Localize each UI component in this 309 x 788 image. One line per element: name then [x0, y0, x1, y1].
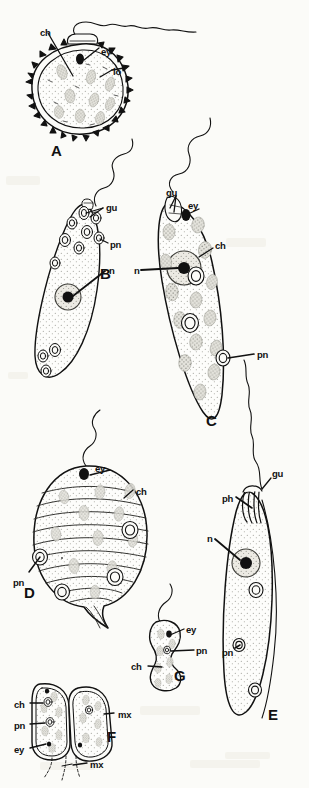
figure-g-organism: [148, 584, 194, 691]
part-label-c-ch: ch: [215, 241, 226, 251]
part-label-c-n: n: [134, 266, 140, 276]
part-label-a-lo: lo: [113, 67, 121, 77]
figure-label-d: D: [24, 585, 35, 600]
part-label-c-ey: ey: [188, 201, 198, 211]
figure-label-g: G: [174, 668, 186, 683]
illustration-plate: A B C D E F G ch ey lo gu pn n gu ey ch …: [0, 0, 309, 788]
part-label-d-pn: pn: [13, 578, 24, 588]
figure-d-organism: [29, 410, 148, 628]
part-label-b-pn: pn: [110, 240, 121, 250]
part-label-e-pn: pn: [222, 648, 233, 658]
part-label-f-pn: pn: [14, 721, 25, 731]
part-label-c-pn: pn: [257, 350, 268, 360]
figure-a-organism: [26, 22, 196, 141]
part-label-e-n: n: [207, 534, 213, 544]
part-label-a-ch: ch: [40, 28, 51, 38]
part-label-a-ey: ey: [101, 47, 111, 57]
part-label-e-gu: gu: [272, 469, 283, 479]
figure-label-f: F: [107, 729, 116, 744]
plate-artwork: [0, 0, 309, 788]
part-label-g-ch: ch: [131, 662, 142, 672]
figure-b-organism: [35, 139, 133, 377]
part-label-g-pn: pn: [196, 646, 207, 656]
figure-label-c: C: [206, 413, 217, 428]
figure-c-organism: [141, 118, 254, 419]
part-label-f-ch: ch: [14, 700, 25, 710]
part-label-d-ch: ch: [136, 487, 147, 497]
part-label-f-mx-right: mx: [118, 710, 131, 720]
part-label-b-n: n: [109, 266, 115, 276]
part-label-f-ey: ey: [14, 745, 24, 755]
figure-e-organism: [215, 360, 276, 718]
part-label-d-ey: ey: [95, 464, 105, 474]
part-label-c-gu: gu: [166, 188, 177, 198]
part-label-e-ph: ph: [222, 494, 233, 504]
part-label-f-mx-bottom: mx: [90, 760, 103, 770]
figure-label-e: E: [268, 707, 278, 722]
part-label-b-gu: gu: [106, 203, 117, 213]
part-label-g-ey: ey: [186, 625, 196, 635]
figure-label-a: A: [51, 143, 62, 158]
